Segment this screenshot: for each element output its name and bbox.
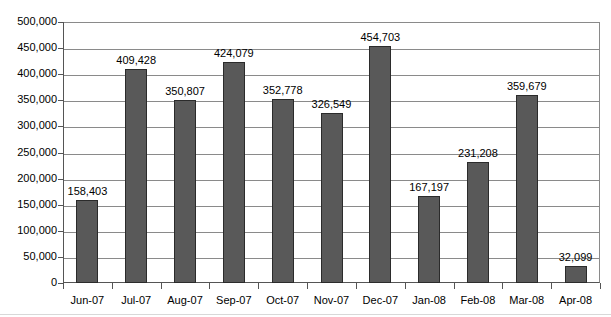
bar-value-label: 32,099 [551,251,600,263]
x-axis-category-label: Apr-08 [551,294,600,306]
bar [418,196,440,283]
y-axis-tick-label: 0 [51,277,57,288]
bar-value-label: 359,679 [502,80,551,92]
bar [174,100,196,283]
y-axis-tick-mark [58,153,64,154]
x-axis-category-label: Nov-07 [307,294,356,306]
y-axis-tick-label: 450,000 [17,42,57,53]
y-axis-tick-mark [58,126,64,127]
bar [516,95,538,283]
bar [125,69,147,283]
bar [321,113,343,283]
y-axis-tick-label: 300,000 [17,120,57,131]
x-axis-tick-mark [63,283,64,289]
x-axis-tick-mark [600,283,601,289]
x-axis-category-label: Jul-07 [112,294,161,306]
x-axis-category-label: Mar-08 [502,294,551,306]
y-axis-tick-label: 50,000 [23,251,57,262]
y-axis-tick-label: 500,000 [17,16,57,27]
bar [467,162,489,283]
x-axis-tick-mark [356,283,357,289]
bar [76,200,98,283]
y-axis-tick-mark [58,179,64,180]
bar-value-label: 158,403 [63,185,112,197]
bar-value-label: 424,079 [209,47,258,59]
x-axis-category-label: Jun-07 [63,294,112,306]
x-axis-tick-mark [161,283,162,289]
y-axis-tick-label: 100,000 [17,225,57,236]
bar [223,62,245,283]
x-axis-category-label: Aug-07 [161,294,210,306]
x-axis-category-label: Oct-07 [258,294,307,306]
y-axis-tick-mark [58,100,64,101]
y-axis-tick-label: 150,000 [17,199,57,210]
x-axis-tick-mark [112,283,113,289]
x-axis-tick-mark [454,283,455,289]
y-axis-tick-mark [58,257,64,258]
y-axis-tick-label: 350,000 [17,94,57,105]
y-axis-tick-mark [58,74,64,75]
bottom-rule [0,314,611,315]
x-axis-category-label: Dec-07 [356,294,405,306]
bar-chart: 050,000100,000150,000200,000250,000300,0… [0,0,611,317]
y-axis-tick-mark [58,22,64,23]
bar [565,266,587,283]
y-axis-tick-mark [58,231,64,232]
bar-value-label: 352,778 [258,84,307,96]
y-axis-tick-label: 400,000 [17,68,57,79]
y-axis-tick-mark [58,205,64,206]
bar-value-label: 231,208 [454,147,503,159]
bar-value-label: 167,197 [405,181,454,193]
gridline [64,49,599,50]
y-axis-tick-label: 250,000 [17,147,57,158]
bar-value-label: 326,549 [307,98,356,110]
x-axis-category-label: Feb-08 [454,294,503,306]
x-axis-category-label: Jan-08 [405,294,454,306]
x-axis-tick-mark [551,283,552,289]
x-axis-tick-mark [209,283,210,289]
x-axis-category-label: Sep-07 [209,294,258,306]
x-axis-tick-mark [307,283,308,289]
y-axis-tick-label: 200,000 [17,173,57,184]
y-axis-tick-mark [58,48,64,49]
x-axis-tick-mark [405,283,406,289]
x-axis-tick-mark [502,283,503,289]
bar [272,99,294,283]
bar-value-label: 454,703 [356,31,405,43]
bar [369,46,391,283]
x-axis-tick-mark [258,283,259,289]
bar-value-label: 350,807 [161,85,210,97]
bar-value-label: 409,428 [112,54,161,66]
